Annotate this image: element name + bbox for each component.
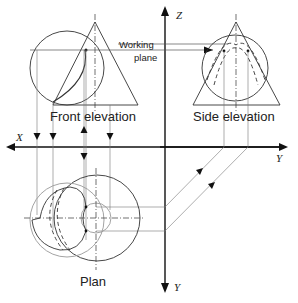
y-axis-arrow-icon	[279, 143, 288, 151]
working-plane-arrow-icon	[204, 47, 213, 54]
x-axis-label: X	[16, 132, 23, 143]
working-plane-label-line1: Working	[119, 39, 154, 50]
working-plane-label-line2: plane	[134, 52, 157, 63]
plan-view	[24, 168, 145, 270]
z-axis-label: Z	[176, 10, 182, 21]
plan-label: Plan	[80, 275, 106, 288]
z-axis-arrow-icon	[161, 6, 169, 16]
y-axis-vertical-label: Y	[174, 282, 180, 293]
front-elevation-label: Front elevation	[50, 110, 136, 123]
x-axis-arrow-icon	[6, 143, 15, 151]
side-elevation	[193, 14, 280, 147]
y-axis-down-arrow-icon	[161, 283, 169, 293]
y-axis-horizontal-label: Y	[276, 153, 282, 164]
side-elevation-label: Side elevation	[193, 110, 275, 123]
sphere-plan	[30, 183, 104, 257]
projection-arrows	[34, 126, 216, 189]
intersection-curve-plan	[32, 187, 86, 250]
cone-side	[193, 22, 280, 105]
